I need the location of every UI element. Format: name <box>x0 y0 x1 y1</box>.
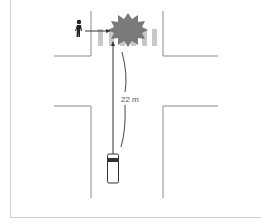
distance-label: 22 m <box>121 95 139 104</box>
vehicle-path-arrow <box>111 41 115 155</box>
car-icon <box>108 154 119 183</box>
pedestrian-icon <box>75 20 82 37</box>
distance-curve-lower <box>121 105 125 147</box>
distance-curve <box>122 52 126 92</box>
intersection-diagram <box>0 0 261 224</box>
